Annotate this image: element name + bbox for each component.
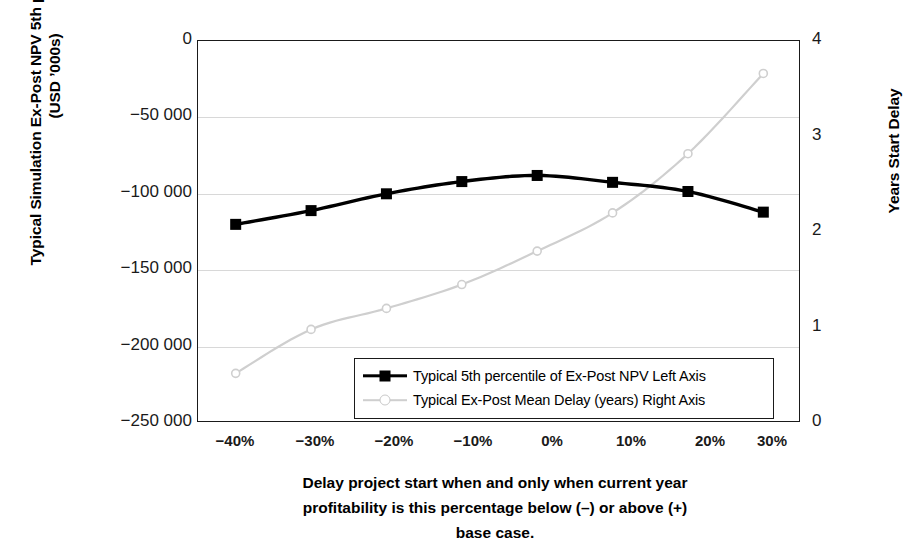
x-tick-m30: −30% — [275, 432, 355, 449]
chart-figure: Typical Simulation Ex-Post NPV 5th perce… — [0, 0, 911, 558]
legend-label-delay: Typical Ex-Post Mean Delay (years) Right… — [413, 392, 705, 408]
y-left-tick-3: −150 000 — [97, 258, 192, 278]
plot-area: Typical 5th percentile of Ex-Post NPV Le… — [197, 40, 800, 422]
x-tick-0: 0% — [512, 432, 592, 449]
right-axis-title: Years Start Delay — [884, 26, 906, 276]
marker-delay-20% — [684, 150, 692, 158]
x-tick-m20: −20% — [354, 432, 434, 449]
x-axis-title-line3: base case. — [150, 520, 840, 545]
marker-npv-10% — [607, 177, 618, 188]
x-tick-m10: −10% — [433, 432, 513, 449]
legend-item-delay: Typical Ex-Post Mean Delay (years) Right… — [363, 388, 765, 412]
marker-npv-0% — [532, 170, 543, 181]
marker-delay--30% — [307, 325, 315, 333]
marker-delay--40% — [232, 369, 240, 377]
x-tick-10: 10% — [591, 432, 671, 449]
marker-npv-20% — [682, 186, 693, 197]
series-markers-delay — [232, 69, 768, 377]
marker-delay-0% — [533, 247, 541, 255]
left-axis-title-text: Typical Simulation Ex-Post NPV 5th perce… — [26, 0, 64, 271]
y-left-tick-2: −100 000 — [97, 182, 192, 202]
legend-key-delay-icon — [363, 393, 407, 407]
legend-key-npv-icon — [363, 369, 407, 383]
x-axis-title-line1: Delay project start when and only when c… — [150, 470, 840, 495]
legend-label-npv: Typical 5th percentile of Ex-Post NPV Le… — [413, 368, 706, 384]
y-left-tick-1: −50 000 — [97, 105, 192, 125]
marker-delay-10% — [609, 209, 617, 217]
y-right-tick-0: 0 — [812, 411, 852, 431]
y-right-tick-4: 4 — [812, 29, 852, 49]
y-right-tick-1: 1 — [812, 316, 852, 336]
x-tick-m40: −40% — [195, 432, 275, 449]
left-axis-title: Typical Simulation Ex-Post NPV 5th perce… — [15, 0, 75, 271]
marker-delay--10% — [458, 281, 466, 289]
legend-item-npv: Typical 5th percentile of Ex-Post NPV Le… — [363, 364, 765, 388]
x-axis-title: Delay project start when and only when c… — [150, 470, 840, 545]
y-left-tick-5: −250 000 — [97, 411, 192, 431]
marker-npv--30% — [306, 205, 317, 216]
x-tick-30: 30% — [732, 432, 812, 449]
x-axis-tick-labels: −40% −30% −20% −10% 0% 10% 20% 30% — [0, 432, 911, 462]
marker-delay-30% — [759, 69, 767, 77]
y-right-tick-3: 3 — [812, 125, 852, 145]
marker-npv-30% — [758, 207, 769, 218]
x-axis-title-line2: profitability is this percentage below (… — [150, 495, 840, 520]
chart-legend: Typical 5th percentile of Ex-Post NPV Le… — [354, 358, 774, 419]
marker-npv--10% — [456, 176, 467, 187]
series-line-npv — [236, 175, 764, 224]
marker-npv--20% — [381, 188, 392, 199]
y-right-tick-2: 2 — [812, 220, 852, 240]
y-left-tick-4: −200 000 — [97, 335, 192, 355]
marker-npv--40% — [230, 219, 241, 230]
y-left-tick-0: 0 — [97, 29, 192, 49]
marker-delay--20% — [382, 304, 390, 312]
